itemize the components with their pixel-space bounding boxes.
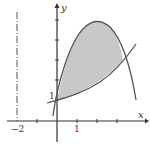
y-axis-label: y <box>61 2 67 13</box>
x-arrow-icon <box>145 119 149 124</box>
x-axis-label: x <box>138 109 144 120</box>
y-arrow-icon <box>55 3 60 8</box>
tick-label-x1: 1 <box>74 124 80 134</box>
tick-label-neg2: −2 <box>11 124 24 134</box>
chart: y x −2 1 1 <box>0 0 150 145</box>
tick-label-y1: 1 <box>49 91 55 101</box>
